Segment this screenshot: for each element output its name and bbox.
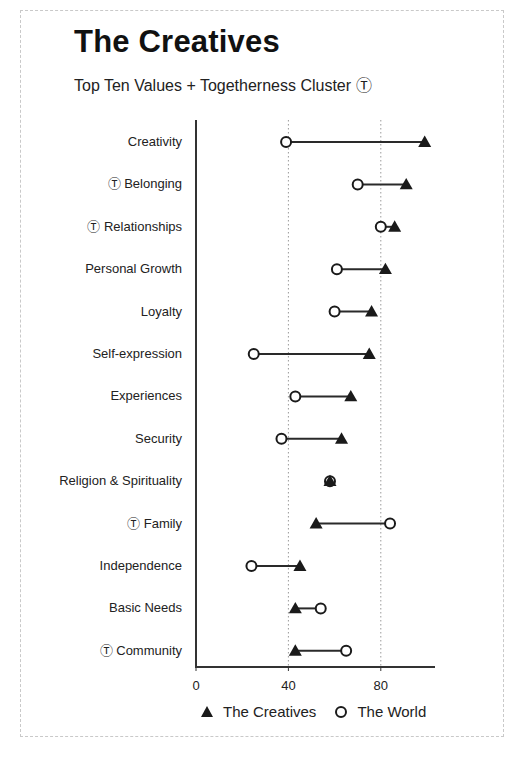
world-marker-open-circle: [332, 264, 342, 274]
legend-label-world: The World: [357, 703, 426, 720]
legend-item-creatives: The Creatives: [200, 703, 316, 720]
world-marker-open-circle: [341, 646, 351, 656]
world-marker-open-circle: [290, 391, 300, 401]
world-marker-open-circle: [330, 307, 340, 317]
legend: The Creatives The World: [200, 703, 438, 720]
world-marker-open-circle: [376, 222, 386, 232]
world-marker-open-circle: [246, 561, 256, 571]
dumbbell-plot: [0, 0, 521, 758]
filled-triangle-icon: [200, 705, 214, 718]
world-marker-open-circle: [249, 349, 259, 359]
world-marker-open-circle: [281, 137, 291, 147]
legend-item-world: The World: [334, 703, 426, 720]
legend-label-creatives: The Creatives: [223, 703, 316, 720]
world-marker-open-circle: [276, 434, 286, 444]
world-marker-open-circle: [316, 603, 326, 613]
world-marker-open-circle: [353, 179, 363, 189]
open-circle-icon: [334, 705, 348, 719]
world-marker-open-circle: [385, 519, 395, 529]
